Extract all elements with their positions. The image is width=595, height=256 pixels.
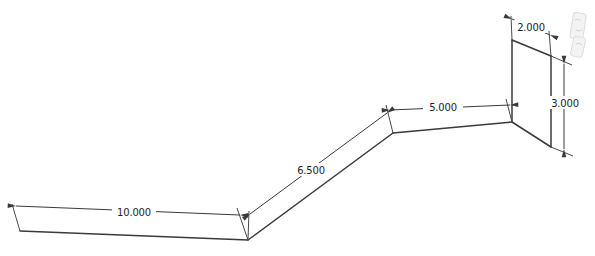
dimension-upper-length: 5.000 — [390, 100, 510, 113]
witness-incline-high — [386, 105, 393, 133]
ghost-cursor-lower — [570, 36, 586, 58]
ghost-cursor-artifact — [570, 12, 587, 58]
dimension-value-upper[interactable]: 5.000 — [429, 102, 457, 113]
dimension-plate-width: 2.000 — [512, 19, 550, 35]
profile-segment-upper[interactable] — [393, 122, 512, 133]
dimension-value-plate-height[interactable]: 3.000 — [551, 98, 579, 109]
dimension-incline-length: 6.500 — [250, 113, 387, 214]
plate-edge-bottom[interactable] — [512, 122, 551, 147]
witness-base-left — [12, 204, 20, 231]
witness-incline-low — [248, 211, 249, 240]
profile-segment-base[interactable] — [20, 231, 248, 240]
witness-plate-height-top — [551, 56, 572, 65]
dimension-base-length: 10.000 — [16, 205, 240, 218]
drawing-canvas[interactable]: 10.000 6.500 5.000 2.000 3.000 — [0, 0, 595, 256]
witness-plate-top-left — [511, 16, 512, 40]
witness-plate-height-bottom — [551, 147, 573, 156]
witness-upper-right — [506, 99, 512, 122]
profile-geometry — [20, 40, 551, 240]
plate-edge-top[interactable] — [512, 40, 551, 56]
dimension-value-base[interactable]: 10.000 — [117, 207, 151, 218]
dimension-value-incline[interactable]: 6.500 — [297, 165, 325, 176]
profile-segment-incline[interactable] — [248, 133, 393, 240]
sketch-viewport[interactable]: 10.000 6.500 5.000 2.000 3.000 — [0, 0, 595, 256]
witness-base-right — [237, 208, 248, 240]
dimension-value-plate-width[interactable]: 2.000 — [517, 22, 545, 33]
dimension-plate-height: 3.000 — [549, 64, 581, 149]
ghost-cursor-upper — [570, 12, 587, 40]
